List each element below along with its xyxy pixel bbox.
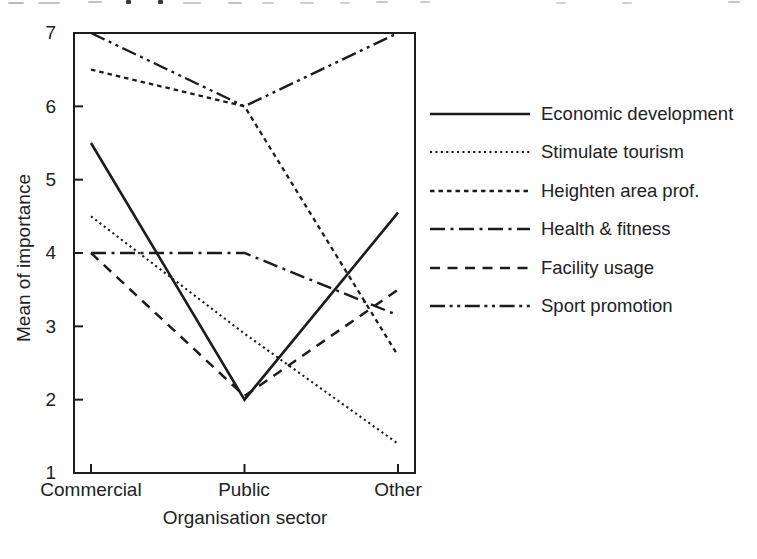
y-tick-label: 6 (16, 95, 56, 118)
legend-label: Facility usage (541, 257, 654, 279)
legend-label: Health & fitness (541, 218, 671, 240)
legend: Economic development Stimulate tourism H… (428, 0, 757, 340)
x-axis-title: Organisation sector (115, 507, 375, 529)
legend-item: Health & fitness (428, 217, 671, 241)
legend-item: Heighten area prof. (428, 179, 699, 203)
y-tick-label: 7 (16, 21, 56, 44)
legend-swatch-dash-dot-line (428, 224, 532, 234)
legend-swatch-fine-dash-line (428, 186, 532, 196)
series-line-health-fitness (91, 253, 398, 315)
legend-item: Economic development (428, 102, 733, 126)
series-line-heighten-area-prof- (91, 70, 398, 356)
y-axis-title: Mean of importance (13, 158, 37, 358)
chart-page: 7 6 5 4 3 2 1 Commercial Public Other Or… (0, 0, 757, 559)
legend-label: Stimulate tourism (541, 141, 684, 163)
series-line-facility-usage (91, 253, 398, 396)
legend-label: Heighten area prof. (541, 180, 699, 202)
legend-swatch-medium-dash-line (428, 263, 532, 273)
legend-swatch-dotted-line (428, 147, 532, 157)
series-line-stimulate-tourism (91, 216, 398, 443)
legend-swatch-solid-line (428, 109, 532, 119)
x-category-label: Commercial (21, 479, 161, 501)
legend-item: Sport promotion (428, 294, 673, 318)
x-category-label: Public (174, 479, 314, 501)
x-category-label: Other (328, 479, 468, 501)
legend-swatch-dash-dot-dot-line (428, 301, 532, 311)
legend-label: Economic development (541, 103, 733, 125)
legend-item: Facility usage (428, 256, 654, 280)
legend-label: Sport promotion (541, 295, 673, 317)
series-line-sport-promotion (91, 33, 398, 106)
series-line-economic-development (91, 143, 398, 400)
legend-item: Stimulate tourism (428, 140, 684, 164)
y-tick-label: 2 (16, 388, 56, 411)
